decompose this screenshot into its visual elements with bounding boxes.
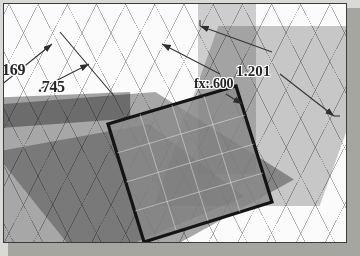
dimension-leader-600[interactable] xyxy=(162,44,242,104)
dimension-value-1201[interactable]: 1.201 xyxy=(236,63,271,80)
cad-viewport[interactable]: 169 .745 1.201 fx:.600 xyxy=(0,0,360,256)
dimension-value-fx-600[interactable]: fx:.600 xyxy=(194,76,233,92)
dimension-annotation-layer xyxy=(4,4,346,242)
dimension-value-169[interactable]: 169 xyxy=(3,61,25,79)
cad-graphics-window[interactable]: 169 .745 1.201 fx:.600 xyxy=(3,3,347,243)
dimension-value-745[interactable]: .745 xyxy=(38,78,65,96)
